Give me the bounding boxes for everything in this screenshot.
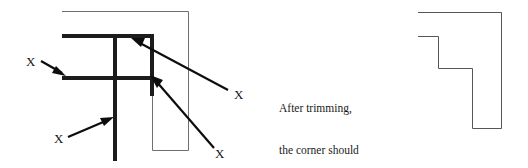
technical-diagram: X X X X: [0, 0, 528, 168]
x-label-top-left: X: [26, 54, 36, 69]
leader-line-bottom-left: [68, 120, 108, 137]
x-label-bottom-left: X: [54, 131, 64, 146]
callout-x-top-left: X: [26, 54, 66, 76]
x-label-top-right: X: [234, 87, 244, 102]
figure-canvas: X X X X After trimming, the corner shoul…: [0, 0, 528, 168]
arrow-head-bottom-left: [100, 117, 114, 126]
right-diagram-step-profile: [418, 13, 502, 129]
caption-block: After trimming, the corner should look l…: [279, 73, 359, 168]
left-diagram-thick-members: [62, 34, 154, 161]
left-diagram-thin-outline: [62, 12, 189, 151]
step-outline-path: [418, 13, 502, 129]
callout-x-bottom-left: X: [54, 117, 114, 146]
callout-x-bottom-right: X: [150, 75, 225, 161]
caption-line-2: the corner should: [279, 143, 359, 157]
callout-x-top-right: X: [131, 38, 244, 102]
leader-line-bottom-right: [156, 81, 214, 148]
x-label-bottom-right: X: [215, 146, 225, 161]
caption-line-1: After trimming,: [279, 101, 359, 115]
